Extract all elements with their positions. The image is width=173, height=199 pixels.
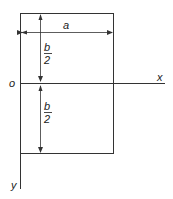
origin-label: o bbox=[9, 77, 15, 89]
top-half-label-numerator: b bbox=[44, 41, 50, 53]
top-arrow-up-icon bbox=[39, 14, 43, 20]
bottom-half-label-numerator: b bbox=[44, 100, 50, 112]
width-label: a bbox=[63, 19, 69, 31]
y-axis-label: y bbox=[10, 179, 18, 191]
plate-diagram: a b 2 b 2 o x y bbox=[0, 0, 173, 199]
top-half-label-denominator: 2 bbox=[43, 54, 50, 66]
x-axis-label: x bbox=[156, 71, 163, 83]
bottom-arrow-up-icon bbox=[39, 85, 43, 91]
bottom-half-label-denominator: 2 bbox=[43, 113, 50, 125]
width-arrow-left-icon bbox=[21, 31, 27, 35]
